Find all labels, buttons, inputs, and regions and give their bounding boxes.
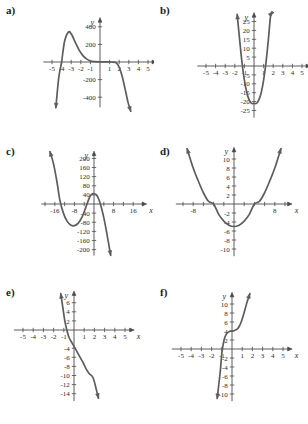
x-tick-f-6: 2 [251, 352, 255, 360]
y-tick-d-1: 8 [226, 165, 230, 173]
x-tick-b-0: -5 [203, 69, 209, 77]
x-tick-b-6: 2 [271, 69, 275, 77]
axes-f [172, 292, 292, 401]
plot-f: -5-4-3-2-112345108642-2-4-6-8-10xy [154, 282, 308, 423]
x-tick-e-4: -1 [61, 333, 67, 341]
y-axis-label-b: y [244, 13, 249, 22]
y-tick-c-3: 80 [83, 182, 91, 190]
y-tick-e-1: 4 [66, 308, 70, 316]
panel-label-e: e) [6, 286, 15, 298]
x-tick-f-8: 4 [271, 352, 275, 360]
panel-c: c)-16-88162001601208040-40-80-120-160-20… [0, 141, 154, 282]
y-tick-b-9: -25 [240, 107, 250, 115]
x-tick-b-9: 5 [300, 69, 304, 77]
y-tick-f-7: -6 [222, 373, 228, 381]
y-tick-f-6: -4 [222, 364, 228, 372]
x-tick-a-5: 1 [108, 65, 112, 73]
x-tick-b-8: 4 [291, 69, 295, 77]
y-tick-f-2: 6 [224, 319, 228, 327]
y-axis-label-a: y [90, 18, 95, 27]
y-axis-label-f: y [222, 292, 227, 301]
plot-e: -5-4-3-2-112345642-4-6-8-10-12-14xy [0, 282, 154, 423]
y-axis-label-c: y [84, 151, 89, 160]
y-axis-label-e: y [64, 291, 69, 300]
panel-label-a: a) [6, 4, 15, 16]
x-tick-e-1: -4 [30, 333, 36, 341]
y-tick-e-6: -10 [60, 372, 70, 380]
y-tick-d-2: 6 [226, 174, 230, 182]
panel-label-d: d) [160, 145, 170, 157]
y-tick-e-0: 6 [66, 299, 70, 307]
x-tick-c-3: 16 [130, 207, 138, 215]
y-tick-c-2: 120 [79, 173, 90, 181]
x-tick-a-8: 4 [137, 65, 141, 73]
y-tick-c-8: -160 [77, 237, 90, 245]
x-axis-label-f: x [294, 351, 299, 360]
y-tick-a-2: -200 [83, 76, 96, 84]
panel-e: e)-5-4-3-2-112345642-4-6-8-10-12-14xy [0, 282, 154, 423]
x-tick-f-9: 5 [281, 352, 285, 360]
x-tick-e-6: 2 [93, 333, 97, 341]
x-tick-c-0: -16 [50, 207, 60, 215]
panel-d: d)-88108642-2-4-6-8-10xy [154, 141, 308, 282]
y-tick-e-2: 2 [66, 318, 70, 326]
y-tick-c-6: -80 [80, 219, 90, 227]
y-tick-d-5: -2 [224, 210, 230, 218]
y-tick-c-1: 160 [79, 164, 90, 172]
x-tick-f-7: 3 [261, 352, 265, 360]
x-axis-label-e: x [136, 332, 141, 341]
x-tick-b-1: -4 [213, 69, 219, 77]
y-tick-c-7: -120 [77, 228, 90, 236]
axes-d [176, 147, 292, 256]
y-tick-c-9: -200 [77, 246, 90, 254]
y-tick-e-5: -8 [64, 363, 70, 371]
x-tick-e-3: -2 [51, 333, 57, 341]
x-tick-d-1: 8 [273, 207, 277, 215]
y-tick-a-3: -400 [83, 94, 96, 102]
x-tick-a-3: -2 [78, 65, 84, 73]
x-tick-b-2: -3 [222, 69, 228, 77]
panel-label-f: f) [160, 286, 167, 298]
x-tick-f-2: -3 [198, 352, 204, 360]
x-axis-label-d: x [294, 206, 299, 215]
y-tick-e-4: -6 [64, 354, 70, 362]
y-tick-b-1: 20 [243, 27, 251, 35]
x-tick-b-7: 3 [281, 69, 285, 77]
x-tick-a-0: -5 [49, 65, 55, 73]
y-tick-d-0: 10 [223, 156, 231, 164]
y-tick-d-3: 4 [226, 183, 230, 191]
y-tick-b-7: -15 [240, 89, 250, 97]
panel-a: a)-5-4-3-2-112345400200-200-400xy [0, 0, 154, 141]
y-tick-d-8: -8 [224, 237, 230, 245]
y-tick-e-8: -14 [60, 390, 70, 398]
x-tick-a-4: -1 [87, 65, 93, 73]
y-tick-b-4: 5 [246, 54, 250, 62]
plot-a: -5-4-3-2-112345400200-200-400xy [0, 0, 154, 141]
y-tick-f-1: 8 [224, 310, 228, 318]
y-tick-d-4: 2 [226, 192, 230, 200]
x-tick-b-3: -2 [232, 69, 238, 77]
x-tick-a-9: 5 [146, 65, 150, 73]
x-tick-e-2: -3 [40, 333, 46, 341]
y-tick-e-3: -4 [64, 345, 70, 353]
y-tick-f-0: 10 [221, 301, 229, 309]
x-tick-e-5: 1 [82, 333, 86, 341]
axes-b [197, 13, 308, 118]
plot-b: -5-4-3-2-112345252015105-5-10-15-20-25xy [154, 0, 308, 141]
panel-b: b)-5-4-3-2-112345252015105-5-10-15-20-25… [154, 0, 308, 141]
y-tick-f-8: -8 [222, 382, 228, 390]
y-axis-label-d: y [224, 147, 229, 156]
panel-label-b: b) [160, 4, 170, 16]
y-tick-a-1: 200 [85, 41, 96, 49]
y-tick-b-2: 15 [243, 36, 251, 44]
x-tick-a-7: 3 [127, 65, 131, 73]
x-tick-e-9: 5 [123, 333, 127, 341]
panel-f: f)-5-4-3-2-112345108642-2-4-6-8-10xy [154, 282, 308, 423]
x-tick-f-0: -5 [178, 352, 184, 360]
y-tick-f-9: -10 [218, 391, 228, 399]
x-axis-label-c: x [148, 206, 153, 215]
y-tick-f-5: -2 [222, 355, 228, 363]
x-tick-e-8: 4 [113, 333, 117, 341]
figure-sheet: a)-5-4-3-2-112345400200-200-400xyb)-5-4-… [0, 0, 308, 424]
x-tick-c-1: -8 [71, 207, 77, 215]
